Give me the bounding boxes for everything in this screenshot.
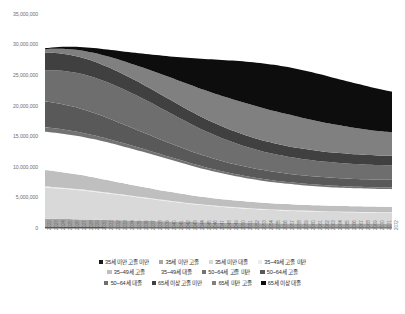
y-axis-tick: 15,000,000 bbox=[0, 133, 38, 139]
stacked-area-chart: 05,000,00010,000,00015,000,00020,000,000… bbox=[0, 0, 405, 314]
legend-label: 35~49세 대졸 bbox=[161, 268, 192, 276]
x-axis-tick: 2034 bbox=[130, 220, 135, 230]
legend-swatch-icon bbox=[209, 260, 213, 264]
x-axis-tick: 2060 bbox=[311, 220, 316, 230]
legend-swatch-icon bbox=[260, 270, 264, 274]
x-axis-tick: 2066 bbox=[352, 220, 357, 230]
x-axis-tick: 2025 bbox=[68, 220, 73, 230]
x-axis-tick: 2033 bbox=[123, 220, 128, 230]
legend-swatch-icon bbox=[261, 281, 265, 285]
legend-label: 65세 미만 고졸 bbox=[218, 279, 251, 287]
x-axis-tick: 2056 bbox=[283, 220, 288, 230]
legend-label: 50~64세 고졸 bbox=[267, 268, 298, 276]
x-axis-tick: 2039 bbox=[165, 220, 170, 230]
x-axis-tick: 2050 bbox=[241, 220, 246, 230]
x-axis-tick: 2070 bbox=[380, 220, 385, 230]
x-axis-tick: 2035 bbox=[137, 220, 142, 230]
x-axis-tick: 2068 bbox=[366, 220, 371, 230]
x-axis-tick: 2024 bbox=[61, 220, 66, 230]
legend-item[interactable]: 35세 미만 고졸 미만 bbox=[99, 258, 149, 266]
legend-item[interactable]: 35세 미만 고졸 bbox=[159, 258, 198, 266]
legend-label: 50~64세 대졸 bbox=[111, 279, 142, 287]
legend-label: 35세 미만 대졸 bbox=[215, 258, 248, 266]
x-axis-tick: 2072 bbox=[394, 220, 399, 230]
legend-item[interactable]: 35~49세 대졸 bbox=[155, 268, 192, 276]
x-axis-tick: 2031 bbox=[109, 220, 114, 230]
x-axis-tick: 2027 bbox=[82, 220, 87, 230]
legend-swatch-icon bbox=[107, 270, 111, 274]
legend-swatch-icon bbox=[258, 260, 262, 264]
legend-label: 65세 이상 고졸 미만 bbox=[158, 279, 202, 287]
x-axis-tick: 2038 bbox=[158, 220, 163, 230]
x-axis-tick: 2028 bbox=[89, 220, 94, 230]
plot-svg bbox=[0, 0, 405, 250]
x-axis-tick: 2069 bbox=[373, 220, 378, 230]
y-axis-tick: 20,000,000 bbox=[0, 103, 38, 109]
x-axis-tick: 2058 bbox=[297, 220, 302, 230]
y-axis-tick: 35,000,000 bbox=[0, 11, 38, 17]
legend-item[interactable]: 65세 이상 대졸 bbox=[261, 279, 300, 287]
legend-row: 35세 미만 고졸 미만35세 미만 고졸35세 미만 대졸35~49세 고졸 … bbox=[34, 258, 371, 266]
legend-row: 35~49세 고졸35~49세 대졸50~64세 고졸 미만50~64세 고졸 bbox=[34, 268, 371, 276]
x-axis-tick: 2062 bbox=[325, 220, 330, 230]
legend-swatch-icon bbox=[152, 281, 156, 285]
legend-item[interactable]: 50~64세 고졸 bbox=[260, 268, 297, 276]
x-axis-tick: 2040 bbox=[172, 220, 177, 230]
x-axis-tick: 2023 bbox=[54, 220, 59, 230]
x-axis-tick: 2049 bbox=[234, 220, 239, 230]
chart-legend: 35세 미만 고졸 미만35세 미만 고졸35세 미만 대졸35~49세 고졸 … bbox=[0, 258, 405, 289]
x-axis-tick: 2029 bbox=[95, 220, 100, 230]
legend-row: 50~64세 대졸65세 이상 고졸 미만65세 미만 고졸65세 이상 대졸 bbox=[34, 279, 371, 287]
legend-label: 65세 이상 대졸 bbox=[268, 279, 301, 287]
legend-label: 35세 미만 고졸 bbox=[166, 258, 199, 266]
x-axis-tick: 2032 bbox=[116, 220, 121, 230]
x-axis-tick: 2071 bbox=[387, 220, 392, 230]
x-axis-tick: 2064 bbox=[338, 220, 343, 230]
x-axis-tick: 2047 bbox=[220, 220, 225, 230]
x-axis-tick: 2042 bbox=[186, 220, 191, 230]
x-axis-tick: 2065 bbox=[345, 220, 350, 230]
legend-swatch-icon bbox=[99, 260, 103, 264]
legend-item[interactable]: 35~49세 고졸 bbox=[107, 268, 144, 276]
x-axis-tick: 2037 bbox=[151, 220, 156, 230]
y-axis-tick: 25,000,000 bbox=[0, 72, 38, 78]
x-axis-tick: 2044 bbox=[200, 220, 205, 230]
x-axis-tick: 2051 bbox=[248, 220, 253, 230]
y-axis-tick: 5,000,000 bbox=[0, 194, 38, 200]
y-axis-tick: 10,000,000 bbox=[0, 164, 38, 170]
legend-swatch-icon bbox=[212, 281, 216, 285]
legend-label: 50~64세 고졸 미만 bbox=[208, 268, 250, 276]
x-axis-tick: 2022 bbox=[47, 220, 52, 230]
x-axis-tick: 2055 bbox=[276, 220, 281, 230]
legend-item[interactable]: 65세 미만 고졸 bbox=[212, 279, 251, 287]
legend-label: 35~49세 고졸 bbox=[114, 268, 145, 276]
legend-label: 35세 미만 고졸 미만 bbox=[105, 258, 149, 266]
x-axis-tick: 2041 bbox=[179, 220, 184, 230]
x-axis-tick: 2057 bbox=[290, 220, 295, 230]
x-axis-tick: 2067 bbox=[359, 220, 364, 230]
y-axis-tick: 0 bbox=[0, 225, 38, 231]
x-axis-tick: 2048 bbox=[227, 220, 232, 230]
x-axis-tick: 2052 bbox=[255, 220, 260, 230]
x-axis-tick: 2026 bbox=[75, 220, 80, 230]
legend-item[interactable]: 35세 미만 대졸 bbox=[209, 258, 248, 266]
x-axis-tick: 2061 bbox=[318, 220, 323, 230]
x-axis-tick: 2036 bbox=[144, 220, 149, 230]
legend-swatch-icon bbox=[159, 260, 163, 264]
x-axis-tick: 2059 bbox=[304, 220, 309, 230]
legend-swatch-icon bbox=[202, 270, 206, 274]
legend-item[interactable]: 35~49세 고졸 미만 bbox=[258, 258, 306, 266]
legend-swatch-icon bbox=[155, 270, 159, 274]
x-axis-tick: 2063 bbox=[331, 220, 336, 230]
x-axis-tick: 2054 bbox=[269, 220, 274, 230]
x-axis-tick: 2046 bbox=[213, 220, 218, 230]
x-axis-tick: 2030 bbox=[102, 220, 107, 230]
x-axis-tick: 2043 bbox=[193, 220, 198, 230]
y-axis-tick: 30,000,000 bbox=[0, 41, 38, 47]
plot-area: 05,000,00010,000,00015,000,00020,000,000… bbox=[0, 0, 405, 250]
legend-item[interactable]: 50~64세 대졸 bbox=[104, 279, 141, 287]
legend-item[interactable]: 65세 이상 고졸 미만 bbox=[152, 279, 202, 287]
legend-label: 35~49세 고졸 미만 bbox=[264, 258, 306, 266]
legend-item[interactable]: 50~64세 고졸 미만 bbox=[202, 268, 250, 276]
x-axis-tick: 2053 bbox=[262, 220, 267, 230]
